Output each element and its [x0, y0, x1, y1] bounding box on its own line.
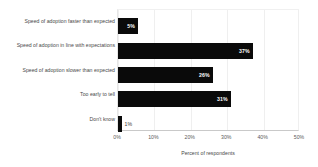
bar-3[interactable]: 31%: [118, 91, 231, 107]
bar-value-4: 1%: [125, 121, 133, 127]
bar-row: 26%: [118, 63, 298, 87]
x-tick-4: 40%: [257, 134, 267, 140]
bar-4[interactable]: 1%: [118, 116, 122, 132]
category-label-4: Don't know: [0, 117, 115, 122]
bar-chart: 5% 37% 26% 31% 1% Speed of adoption fast…: [0, 0, 318, 167]
category-label-0: Speed of adoption faster than expected: [0, 19, 115, 24]
x-tick-5: 50%: [294, 134, 304, 140]
x-axis-title: Percent of respondents: [117, 150, 299, 156]
bar-row: 31%: [118, 87, 298, 111]
bar-row: 5%: [118, 14, 298, 38]
bar-0[interactable]: 5%: [118, 18, 138, 34]
bar-2[interactable]: 26%: [118, 67, 213, 83]
category-label-3: Too early to tell: [0, 92, 115, 97]
bar-value-0: 5%: [127, 23, 138, 29]
x-tick-3: 30%: [221, 134, 231, 140]
plot-area: 5% 37% 26% 31% 1%: [117, 9, 299, 131]
bar-1[interactable]: 37%: [118, 43, 253, 59]
bar-row: 37%: [118, 38, 298, 62]
bar-row: 1%: [118, 112, 298, 136]
bar-value-2: 26%: [199, 72, 213, 78]
x-tick-2: 20%: [185, 134, 195, 140]
category-label-2: Speed of adoption slower than expected: [0, 68, 115, 73]
bar-value-3: 31%: [217, 96, 231, 102]
category-label-1: Speed of adoption in line with expectati…: [0, 43, 115, 48]
bar-value-1: 37%: [239, 48, 253, 54]
x-tick-0: 0%: [113, 134, 121, 140]
x-tick-1: 10%: [148, 134, 158, 140]
